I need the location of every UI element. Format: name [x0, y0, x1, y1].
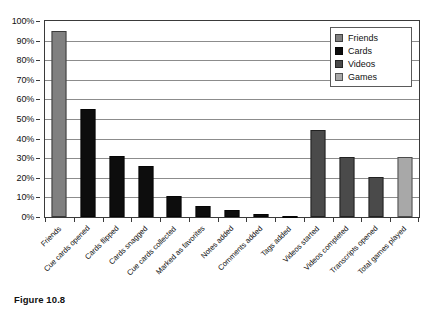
bar[interactable] — [282, 216, 297, 217]
bar-slot — [275, 21, 304, 217]
bar-fill — [109, 156, 124, 217]
bar[interactable] — [109, 156, 124, 217]
bar-slot — [160, 21, 189, 217]
y-tick-mark — [36, 99, 40, 100]
y-tick-label: 80% — [17, 55, 34, 65]
y-tick-label: 40% — [17, 134, 34, 144]
y-tick-label: 10% — [17, 192, 34, 202]
bar-fill — [311, 130, 326, 217]
figure-caption: Figure 10.8 — [14, 294, 65, 305]
x-tick-label: Friends — [39, 224, 63, 248]
bar-slot — [45, 21, 74, 217]
y-tick-label: 50% — [17, 114, 34, 124]
legend-label: Friends — [348, 33, 378, 43]
y-tick-label: 60% — [17, 94, 34, 104]
legend-swatch-icon — [335, 73, 343, 81]
y-tick-mark — [36, 119, 40, 120]
bar-fill — [368, 177, 383, 217]
bar-slot — [189, 21, 218, 217]
legend-swatch-icon — [335, 47, 343, 55]
bar[interactable] — [52, 31, 67, 217]
bar[interactable] — [311, 130, 326, 217]
bar-fill — [167, 196, 182, 217]
y-tick-mark — [36, 80, 40, 81]
y-tick-mark — [36, 139, 40, 140]
legend-swatch-icon — [335, 34, 343, 42]
bar-slot — [74, 21, 103, 217]
bar-slot — [304, 21, 333, 217]
legend-item[interactable]: Cards — [335, 44, 407, 57]
y-tick-label: 30% — [17, 153, 34, 163]
y-tick-mark — [36, 41, 40, 42]
bar-fill — [253, 214, 268, 217]
x-axis-labels: FriendsCue cards openedCards flippedCard… — [0, 222, 435, 292]
figure-container: 100%90%80%70%60%50%40%30%20%10%0% Friend… — [0, 0, 435, 314]
y-tick-mark — [36, 21, 40, 22]
bar[interactable] — [196, 206, 211, 217]
chart-legend: FriendsCardsVideosGames — [330, 27, 412, 87]
bar-slot — [246, 21, 275, 217]
bar-fill — [340, 157, 355, 217]
y-tick-mark — [36, 178, 40, 179]
bar[interactable] — [253, 214, 268, 217]
bar[interactable] — [368, 177, 383, 217]
bar-fill — [52, 31, 67, 217]
y-tick-label: 70% — [17, 75, 34, 85]
legend-item[interactable]: Games — [335, 70, 407, 83]
legend-label: Videos — [348, 59, 375, 69]
bar-fill — [397, 157, 412, 217]
y-tick-label: 0% — [21, 212, 34, 222]
bar-fill — [81, 109, 96, 217]
bar[interactable] — [167, 196, 182, 217]
legend-item[interactable]: Friends — [335, 31, 407, 44]
y-tick-mark — [36, 197, 40, 198]
bar-slot — [131, 21, 160, 217]
y-tick-mark — [36, 217, 40, 218]
bar-fill — [196, 206, 211, 217]
bar[interactable] — [224, 210, 239, 217]
y-tick-label: 90% — [17, 36, 34, 46]
bar[interactable] — [397, 157, 412, 217]
x-tick-label: Cue cards collected — [125, 224, 178, 277]
bar-fill — [138, 166, 153, 217]
y-tick-mark — [36, 158, 40, 159]
bar-slot — [218, 21, 247, 217]
bar-slot — [103, 21, 132, 217]
bar[interactable] — [340, 157, 355, 217]
legend-label: Games — [348, 72, 377, 82]
x-tick-label: Marked as favorites — [154, 224, 207, 277]
legend-swatch-icon — [335, 60, 343, 68]
y-tick-mark — [36, 60, 40, 61]
y-axis: 100%90%80%70%60%50%40%30%20%10%0% — [0, 20, 40, 218]
y-tick-label: 20% — [17, 173, 34, 183]
bar-fill — [224, 210, 239, 217]
bar[interactable] — [81, 109, 96, 217]
bar[interactable] — [138, 166, 153, 217]
legend-item[interactable]: Videos — [335, 57, 407, 70]
legend-label: Cards — [348, 46, 372, 56]
y-tick-label: 100% — [12, 16, 34, 26]
